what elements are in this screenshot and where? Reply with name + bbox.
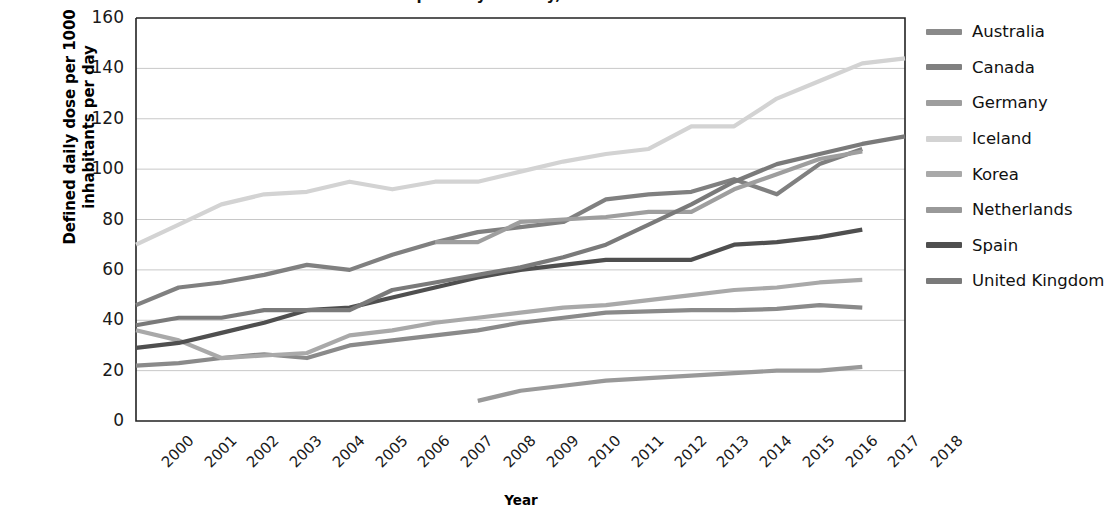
series-line-korea	[136, 280, 862, 358]
legend-label: Netherlands	[972, 200, 1073, 219]
chart-figure: Antibiotic consumption by country, 2000-…	[0, 0, 1115, 523]
series-line-united-kingdom	[136, 136, 905, 325]
legend-label: Canada	[972, 58, 1035, 77]
legend-label: Spain	[972, 236, 1018, 255]
legend-swatch-icon	[926, 171, 962, 177]
legend-item[interactable]: Netherlands	[926, 192, 1115, 228]
chart-legend: AustraliaCanadaGermanyIcelandKoreaNether…	[926, 14, 1115, 299]
legend-swatch-icon	[926, 242, 962, 248]
legend-label: Germany	[972, 93, 1048, 112]
legend-swatch-icon	[926, 207, 962, 213]
legend-item[interactable]: Iceland	[926, 121, 1115, 157]
legend-item[interactable]: Australia	[926, 14, 1115, 50]
legend-item[interactable]: Korea	[926, 156, 1115, 192]
legend-swatch-icon	[926, 29, 962, 35]
legend-swatch-icon	[926, 278, 962, 284]
legend-swatch-icon	[926, 64, 962, 70]
legend-item[interactable]: United Kingdom	[926, 263, 1115, 299]
legend-label: Korea	[972, 165, 1019, 184]
series-line-iceland	[136, 58, 905, 244]
legend-label: Australia	[972, 22, 1045, 41]
legend-label: United Kingdom	[972, 271, 1104, 290]
legend-swatch-icon	[926, 136, 962, 142]
legend-item[interactable]: Germany	[926, 85, 1115, 121]
legend-label: Iceland	[972, 129, 1032, 148]
series-line-netherlands	[478, 367, 863, 401]
legend-swatch-icon	[926, 100, 962, 106]
legend-item[interactable]: Canada	[926, 50, 1115, 86]
legend-item[interactable]: Spain	[926, 228, 1115, 264]
